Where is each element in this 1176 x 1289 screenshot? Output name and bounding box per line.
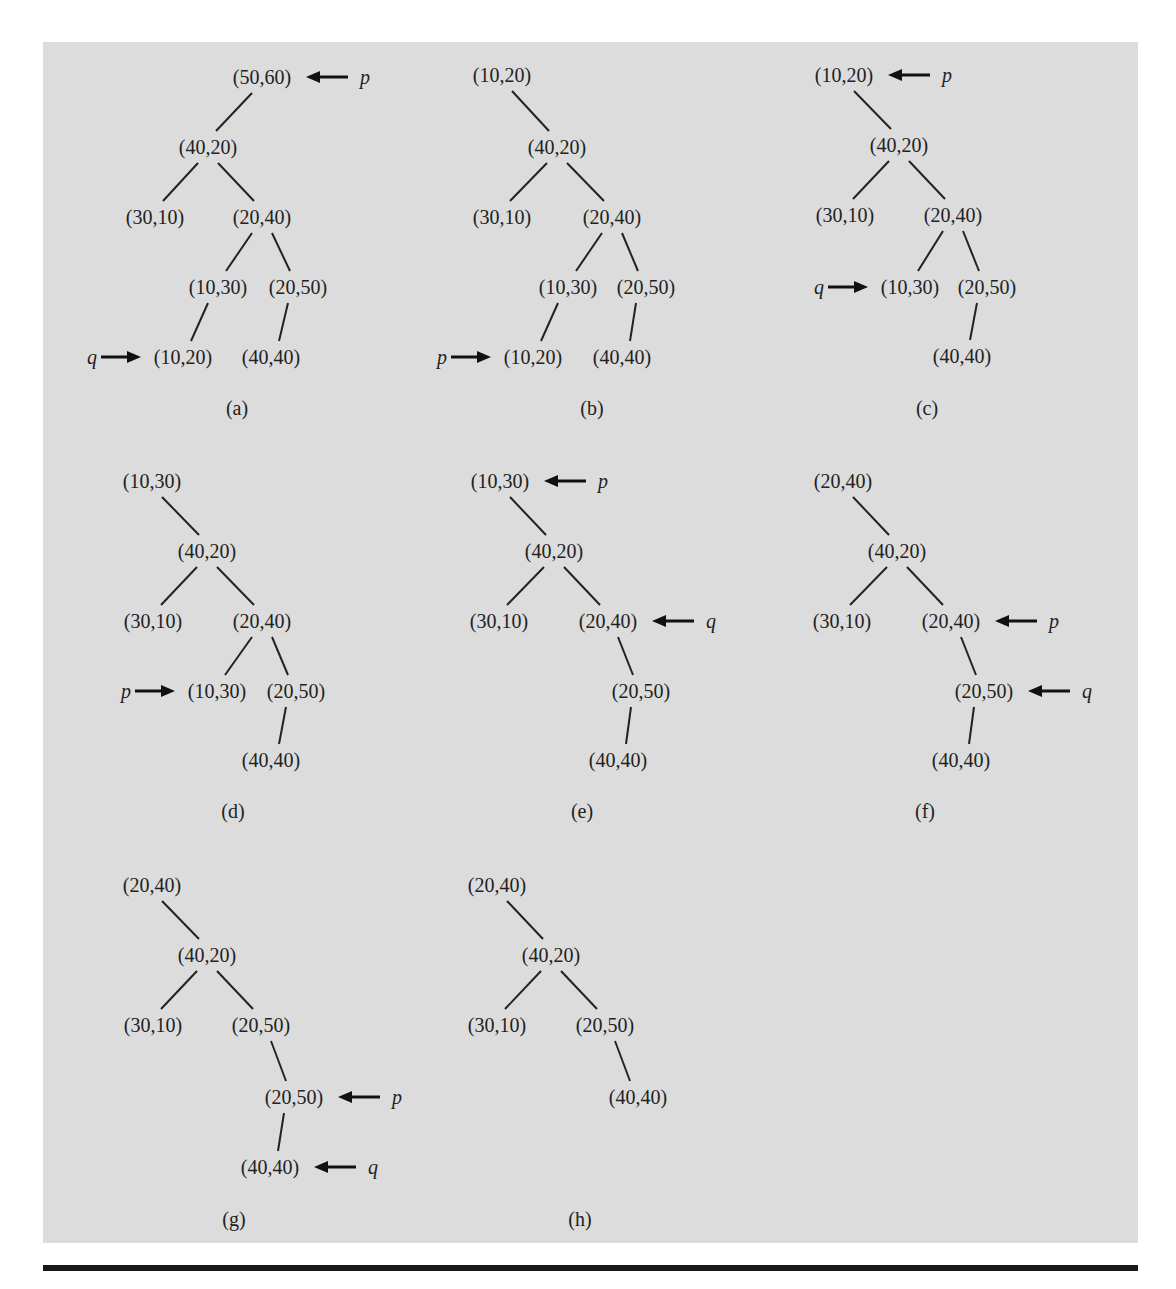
- tree-node: (10,30): [188, 680, 246, 703]
- tree-node: (40,20): [528, 136, 586, 159]
- tree-node: (20,50): [265, 1086, 323, 1109]
- panel-g: (20,40)(40,20)(30,10)(20,50)(20,50)(40,4…: [123, 874, 402, 1231]
- tree-edge: [272, 637, 288, 675]
- pointer-q: q: [1028, 680, 1092, 703]
- tree-edge: [191, 303, 208, 341]
- pointer-p: p: [119, 680, 175, 703]
- tree-edge: [162, 901, 199, 939]
- tree-node: (40,20): [522, 944, 580, 967]
- tree-node: (20,40): [579, 610, 637, 633]
- tree-edge: [161, 567, 197, 605]
- panel-caption: (e): [571, 800, 593, 823]
- tree-node: (40,40): [933, 345, 991, 368]
- pointer-q: q: [814, 276, 868, 299]
- tree-node: (40,20): [525, 540, 583, 563]
- tree-node: (40,20): [179, 136, 237, 159]
- tree-node: (40,20): [178, 944, 236, 967]
- tree-edge: [622, 233, 638, 271]
- tree-node: (20,40): [583, 206, 641, 229]
- tree-edge: [850, 567, 887, 605]
- arrowhead-icon: [652, 615, 666, 627]
- panel-caption: (f): [915, 800, 935, 823]
- pointer-p: p: [306, 66, 370, 89]
- arrowhead-icon: [306, 71, 320, 83]
- arrowhead-icon: [127, 351, 141, 363]
- panel-caption: (b): [580, 397, 603, 420]
- panel-c: (10,20)(40,20)(30,10)(20,40)(10,30)(20,5…: [814, 64, 1016, 420]
- panel-caption: (d): [221, 800, 244, 823]
- arrowhead-icon: [888, 69, 902, 81]
- tree-edge: [218, 163, 254, 201]
- tree-edge: [618, 637, 633, 675]
- panel-a: (50,60)(40,20)(30,10)(20,40)(10,30)(20,5…: [87, 66, 370, 420]
- tree-node: (30,10): [813, 610, 871, 633]
- tree-node: (40,20): [868, 540, 926, 563]
- tree-node: (20,40): [922, 610, 980, 633]
- panel-caption: (c): [916, 397, 938, 420]
- pointer-q: q: [87, 346, 141, 369]
- arrowhead-icon: [544, 475, 558, 487]
- arrowhead-icon: [314, 1161, 328, 1173]
- tree-edge: [272, 233, 290, 271]
- panel-caption: (g): [222, 1208, 245, 1231]
- tree-node: (40,40): [593, 346, 651, 369]
- pointer-label: p: [390, 1086, 402, 1109]
- tree-edge: [567, 163, 604, 201]
- tree-edge: [216, 93, 252, 131]
- arrowhead-icon: [477, 351, 491, 363]
- tree-edge: [576, 233, 602, 271]
- tree-node: (40,40): [241, 1156, 299, 1179]
- tree-node: (10,20): [473, 64, 531, 87]
- tree-edge: [561, 971, 597, 1009]
- pointer-label: p: [119, 680, 131, 703]
- tree-node: (20,40): [233, 206, 291, 229]
- tree-diagram-figure: (50,60)(40,20)(30,10)(20,40)(10,30)(20,5…: [0, 0, 1176, 1289]
- tree-node: (10,20): [154, 346, 212, 369]
- tree-edge: [217, 567, 254, 605]
- tree-node: (20,50): [612, 680, 670, 703]
- tree-node: (10,20): [815, 64, 873, 87]
- tree-node: (30,10): [468, 1014, 526, 1037]
- tree-edge: [970, 303, 977, 340]
- tree-edge: [963, 231, 979, 271]
- tree-edge: [626, 707, 631, 744]
- tree-edge: [510, 163, 547, 201]
- tree-node: (10,20): [504, 346, 562, 369]
- tree-node: (10,30): [539, 276, 597, 299]
- tree-node: (40,40): [932, 749, 990, 772]
- pointer-q: q: [652, 610, 716, 633]
- tree-node: (30,10): [124, 610, 182, 633]
- tree-node: (20,40): [924, 204, 982, 227]
- tree-node: (40,40): [609, 1086, 667, 1109]
- pointer-q: q: [314, 1156, 378, 1179]
- tree-node: (20,50): [269, 276, 327, 299]
- tree-edge: [279, 303, 288, 341]
- tree-node: (20,50): [955, 680, 1013, 703]
- tree-node: (20,50): [617, 276, 675, 299]
- tree-edge: [162, 497, 199, 535]
- tree-edge: [505, 971, 541, 1009]
- tree-node: (10,30): [471, 470, 529, 493]
- tree-edge: [279, 707, 286, 744]
- tree-edge: [961, 637, 976, 675]
- arrowhead-icon: [161, 685, 175, 697]
- tree-node: (30,10): [126, 206, 184, 229]
- panel-e: (10,30)(40,20)(30,10)(20,40)(20,50)(40,4…: [470, 470, 716, 823]
- tree-node: (30,10): [816, 204, 874, 227]
- tree-edge: [507, 567, 544, 605]
- panel-b: (10,20)(40,20)(30,10)(20,40)(10,30)(20,5…: [435, 64, 675, 420]
- pointer-label: q: [1082, 680, 1092, 703]
- tree-edge: [853, 497, 889, 535]
- pointer-p: p: [435, 346, 491, 369]
- arrowhead-icon: [854, 281, 868, 293]
- tree-node: (20,40): [233, 610, 291, 633]
- tree-node: (40,40): [242, 346, 300, 369]
- tree-edge: [226, 233, 252, 271]
- pointer-p: p: [888, 64, 952, 87]
- tree-node: (20,50): [267, 680, 325, 703]
- pointer-p: p: [544, 470, 608, 493]
- tree-node: (30,10): [124, 1014, 182, 1037]
- pointer-label: p: [596, 470, 608, 493]
- tree-edge: [630, 303, 636, 341]
- pointer-label: q: [814, 276, 824, 299]
